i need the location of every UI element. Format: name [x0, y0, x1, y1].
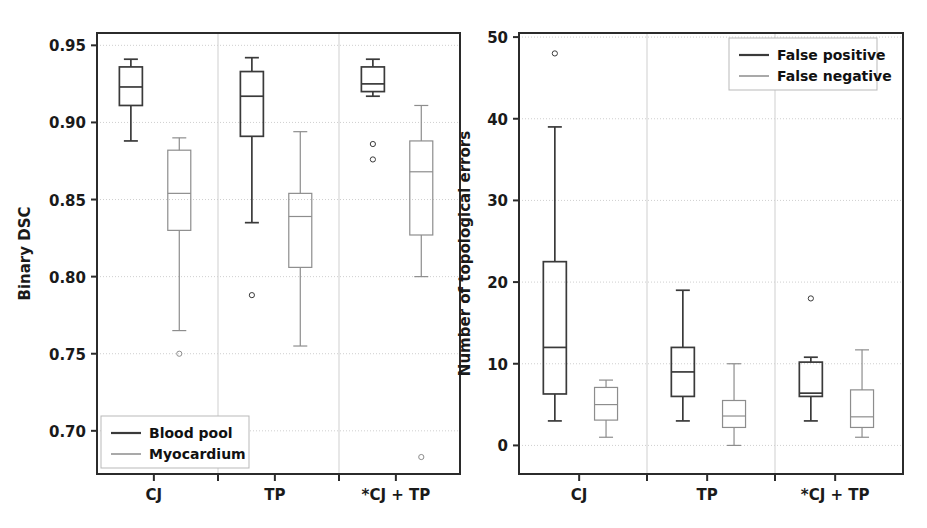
- y-tick-label: 0.70: [49, 423, 86, 441]
- figure-container: 0.950.900.850.800.750.70CJTP*CJ + TPBina…: [0, 0, 927, 528]
- panel-left: 0.950.900.850.800.750.70CJTP*CJ + TPBina…: [16, 33, 460, 504]
- plot-area: [97, 33, 460, 474]
- y-tick-label: 50: [487, 29, 508, 47]
- plot-area: [519, 33, 903, 474]
- y-tick-label: 0.80: [49, 269, 86, 287]
- y-tick-label: 0.95: [49, 37, 86, 55]
- y-axis-title: Number of topological errors: [456, 131, 474, 376]
- legend-right: False positiveFalse negative: [729, 38, 892, 90]
- x-category-label-tp: TP: [697, 486, 718, 504]
- legend-label-false-positive: False positive: [777, 47, 886, 63]
- legend-label-myocardium: Myocardium: [149, 446, 246, 462]
- y-tick-label: 0: [498, 437, 508, 455]
- legend-left: Blood poolMyocardium: [101, 416, 249, 468]
- y-tick-label: 30: [487, 192, 508, 210]
- x-category-label-cjtp: *CJ + TP: [801, 486, 870, 504]
- panel-right: 50403020100CJTP*CJ + TPNumber of topolog…: [456, 29, 903, 504]
- y-tick-label: 40: [487, 111, 508, 129]
- y-tick-label: 0.75: [49, 346, 86, 364]
- x-category-label-cj: CJ: [146, 486, 163, 504]
- y-tick-label: 0.90: [49, 114, 86, 132]
- x-category-label-cj: CJ: [571, 486, 588, 504]
- legend-label-false-negative: False negative: [777, 68, 892, 84]
- legend-label-blood-pool: Blood pool: [149, 425, 233, 441]
- y-tick-label: 10: [487, 356, 508, 374]
- y-tick-label: 0.85: [49, 192, 86, 210]
- y-axis-title: Binary DSC: [16, 206, 34, 300]
- boxplot-figure: 0.950.900.850.800.750.70CJTP*CJ + TPBina…: [0, 0, 927, 528]
- y-tick-label: 20: [487, 274, 508, 292]
- x-category-label-tp: TP: [264, 486, 285, 504]
- x-category-label-cjtp: *CJ + TP: [362, 486, 431, 504]
